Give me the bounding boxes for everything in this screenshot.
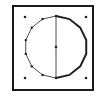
vertex-dot (25, 39, 27, 41)
vertex-dot (55, 77, 57, 79)
left-half-polygon-thin (26, 16, 56, 78)
corner-dot (85, 16, 88, 19)
vertex-dot (31, 26, 33, 28)
center-dot (55, 46, 58, 49)
left-vertex-dots (25, 15, 58, 79)
right-half-polygon-thick (56, 16, 86, 78)
corner-dot (85, 77, 88, 80)
diagram-canvas (0, 0, 99, 97)
vertex-dot (41, 18, 43, 20)
vertex-dot (55, 15, 57, 17)
corner-dot (24, 16, 27, 19)
vertex-dot (25, 53, 27, 55)
vertex-dot (31, 65, 33, 67)
corner-dot (24, 77, 27, 80)
vertex-dot (41, 74, 43, 76)
